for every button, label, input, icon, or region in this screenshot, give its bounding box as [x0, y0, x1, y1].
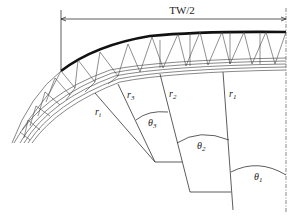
roof-top-chord: [61, 32, 286, 71]
label-theta3: θ3: [148, 117, 157, 130]
label-r2: r2: [169, 88, 177, 101]
geometry-construction: [95, 72, 286, 210]
angle-arc-theta2: [177, 135, 229, 143]
label-theta1: θ1: [254, 171, 262, 184]
roof-truss-diagram: TW/2 ri r3 r2 r1: [0, 0, 297, 223]
radius-line-r2: [160, 74, 190, 192]
label-r3: r3: [127, 89, 135, 102]
lower-chord-5: [32, 70, 286, 143]
angle-labels: θ3 θ2 θ1: [148, 117, 262, 184]
radius-line-ri: [95, 93, 155, 162]
lower-chord-3: [24, 64, 286, 143]
lower-chord-4: [28, 67, 286, 143]
label-theta2: θ2: [197, 140, 206, 153]
radius-labels: ri r3 r2 r1: [95, 88, 236, 119]
label-ri: ri: [95, 106, 101, 119]
dimension-label: TW/2: [169, 4, 195, 16]
dimension-tw2: TW/2: [61, 4, 286, 70]
label-r1: r1: [229, 88, 236, 101]
